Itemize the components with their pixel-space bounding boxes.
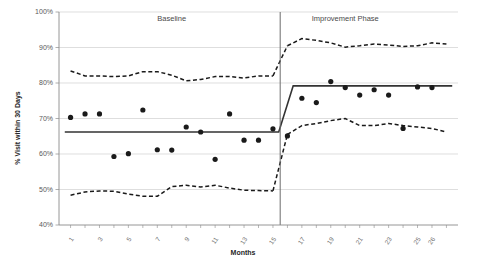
y-tick-label: 90%: [39, 44, 53, 51]
y-tick-label: 60%: [39, 150, 53, 157]
data-point: [415, 84, 420, 89]
data-point: [184, 124, 189, 129]
chart-container: 40%50%60%70%80%90%100% 13579111315171921…: [0, 0, 479, 264]
data-point: [386, 92, 391, 97]
data-point: [270, 126, 275, 131]
data-point: [256, 138, 261, 143]
data-point: [126, 151, 131, 156]
data-point: [357, 92, 362, 97]
y-tick-label: 100%: [35, 8, 53, 15]
y-axis-title: % Visit within 30 Days: [14, 91, 22, 165]
data-point: [155, 147, 160, 152]
data-point: [68, 115, 73, 120]
data-point: [343, 85, 348, 90]
data-point: [111, 154, 116, 159]
data-point: [328, 79, 333, 84]
baseline-phase-label: Baseline: [157, 14, 186, 23]
data-point: [285, 133, 290, 138]
run-chart-svg: 40%50%60%70%80%90%100% 13579111315171921…: [0, 0, 479, 264]
data-point: [97, 111, 102, 116]
data-point: [198, 129, 203, 134]
data-point: [213, 157, 218, 162]
data-point: [241, 138, 246, 143]
y-tick-label: 80%: [39, 79, 53, 86]
y-tick-label: 50%: [39, 186, 53, 193]
x-axis-title: Months: [231, 249, 256, 256]
data-point: [372, 87, 377, 92]
data-point: [169, 148, 174, 153]
data-point: [299, 96, 304, 101]
data-point: [400, 126, 405, 131]
data-point: [82, 111, 87, 116]
data-point: [140, 107, 145, 112]
data-point: [314, 100, 319, 105]
improvement-phase-label: Improvement Phase: [312, 14, 379, 23]
data-point: [227, 111, 232, 116]
y-tick-label: 40%: [39, 221, 53, 228]
data-point: [429, 85, 434, 90]
y-tick-label: 70%: [39, 115, 53, 122]
